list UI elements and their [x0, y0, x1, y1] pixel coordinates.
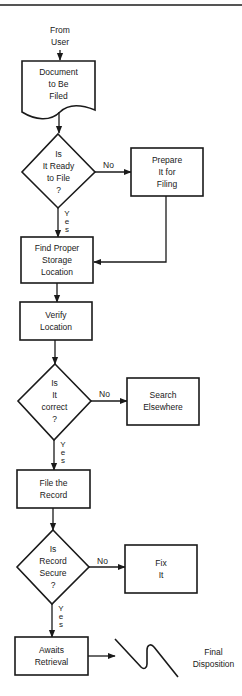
- node-verify[interactable]: Verify Location: [20, 309, 92, 333]
- node-find[interactable]: Find Proper Storage Location: [21, 242, 93, 278]
- node-awaits[interactable]: Awaits Retrieval: [15, 644, 88, 668]
- edge-label-yes-correct: Y e s: [59, 441, 67, 465]
- flowchart-canvas: [0, 0, 242, 696]
- end-label: Final Disposition: [185, 646, 242, 670]
- node-document[interactable]: Document to Be Filed: [22, 66, 95, 102]
- node-fix[interactable]: Fix It: [125, 557, 197, 581]
- node-search[interactable]: Search Elsewhere: [127, 389, 199, 413]
- edge-label-yes-secure: Y e s: [57, 605, 65, 629]
- edge-label-no-secure: No: [97, 556, 108, 566]
- node-prepare[interactable]: Prepare It for Filing: [131, 154, 203, 190]
- node-file[interactable]: File the Record: [17, 477, 90, 501]
- edge-label-no-ready: No: [103, 160, 114, 170]
- node-ready[interactable]: Is It Ready to File ?: [22, 148, 95, 196]
- node-correct[interactable]: Is It correct ?: [18, 377, 91, 425]
- communication-link-symbol: [115, 639, 178, 677]
- edge-label-no-correct: No: [99, 389, 110, 399]
- edge-label-yes-ready: Y e s: [63, 210, 71, 234]
- edge-prepare-find: [94, 196, 166, 262]
- start-label: From User: [40, 24, 80, 48]
- node-secure[interactable]: Is Record Secure ?: [17, 543, 89, 591]
